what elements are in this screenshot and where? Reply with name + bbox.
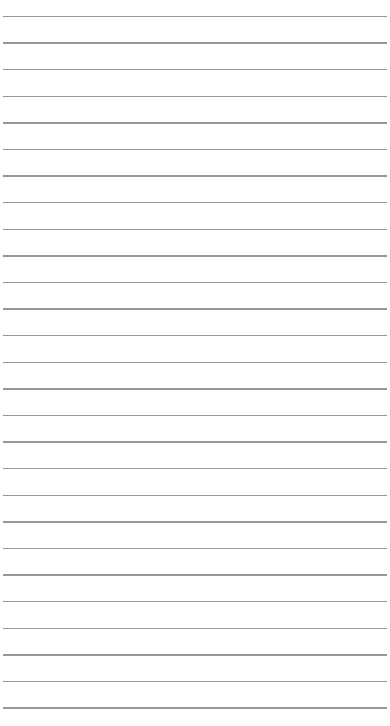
ruled-line <box>3 495 387 497</box>
ruled-line <box>3 601 387 603</box>
ruled-line <box>3 335 387 337</box>
ruled-line <box>3 415 387 417</box>
ruled-line <box>3 175 387 177</box>
ruled-line <box>3 69 387 71</box>
ruled-line <box>3 681 387 683</box>
ruled-line <box>3 42 387 44</box>
ruled-line <box>3 707 387 709</box>
ruled-line <box>3 282 387 284</box>
ruled-line <box>3 548 387 550</box>
ruled-line <box>3 521 387 523</box>
ruled-line <box>3 362 387 364</box>
ruled-paper-sheet <box>0 0 390 726</box>
ruled-line <box>3 149 387 151</box>
ruled-line <box>3 255 387 257</box>
ruled-line <box>3 628 387 630</box>
ruled-line <box>3 441 387 443</box>
ruled-line <box>3 16 387 18</box>
ruled-line <box>3 388 387 390</box>
ruled-line <box>3 308 387 310</box>
ruled-line <box>3 574 387 576</box>
ruled-line <box>3 202 387 204</box>
ruled-line <box>3 122 387 124</box>
ruled-line <box>3 468 387 470</box>
ruled-line <box>3 654 387 656</box>
ruled-line <box>3 96 387 98</box>
ruled-line <box>3 229 387 231</box>
